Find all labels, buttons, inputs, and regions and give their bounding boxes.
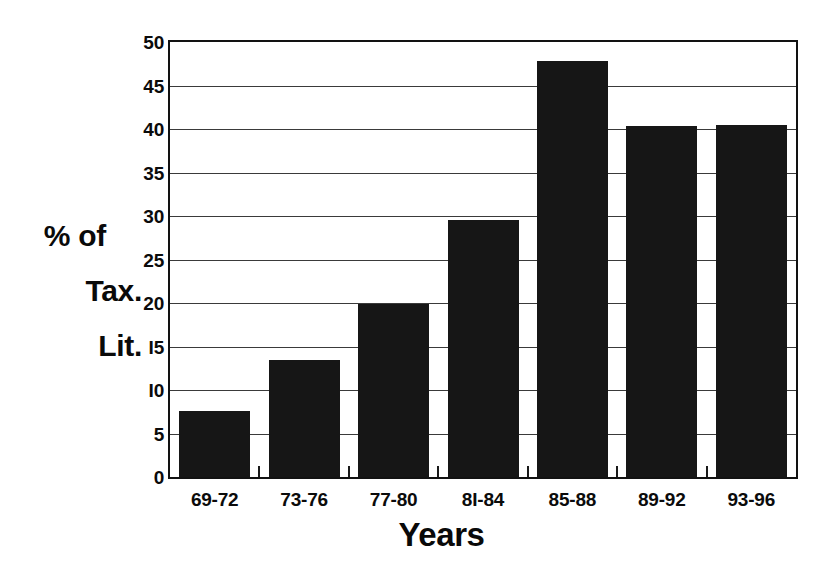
gridline [170,216,796,217]
plot-area [168,40,798,479]
bar[interactable] [537,61,608,477]
x-axis-tick-labels: 69-7273-7677-808I-8485-8889-9293-96 [168,488,798,518]
bar[interactable] [626,126,697,478]
x-axis-tick-label: 8I-84 [438,488,527,512]
y-axis-tick-label: 0 [120,468,164,487]
x-axis-tick-label: 89-92 [617,488,706,512]
x-axis-tick-label: 93-96 [707,488,796,512]
bar[interactable] [179,411,250,477]
x-axis-title: Years [0,516,823,554]
y-axis-tick-label: 35 [120,164,164,183]
x-axis-tick-mark [706,466,708,477]
x-axis-tick-mark [437,466,439,477]
gridline [170,173,796,174]
y-axis-tick-label: 50 [120,33,164,52]
y-axis-tick-label: I0 [120,381,164,400]
x-axis-tick-label: 73-76 [259,488,348,512]
y-axis-tick-label: 30 [120,207,164,226]
x-axis-tick-label: 77-80 [349,488,438,512]
y-axis-tick-label: I5 [120,338,164,357]
y-axis-tick-label: 25 [120,251,164,270]
bar[interactable] [269,360,340,477]
bar-chart-figure: % of Tax. Lit. 05I0I520253035404550 69-7… [0,0,823,575]
y-axis-tick-label: 20 [120,294,164,313]
y-axis-tick-label: 45 [120,77,164,96]
x-axis-tick-label: 85-88 [528,488,617,512]
x-axis-tick-mark [258,466,260,477]
y-axis-tick-label: 40 [120,120,164,139]
x-axis-tick-mark [527,466,529,477]
bar[interactable] [448,220,519,478]
x-axis-tick-label: 69-72 [170,488,259,512]
y-axis-tick-label: 5 [120,425,164,444]
gridline [170,86,796,87]
y-axis-tick-labels: 05I0I520253035404550 [112,0,164,575]
gridline [170,129,796,130]
x-axis-tick-mark [616,466,618,477]
bar[interactable] [716,125,787,477]
x-axis-tick-mark [348,466,350,477]
bar[interactable] [358,304,429,477]
